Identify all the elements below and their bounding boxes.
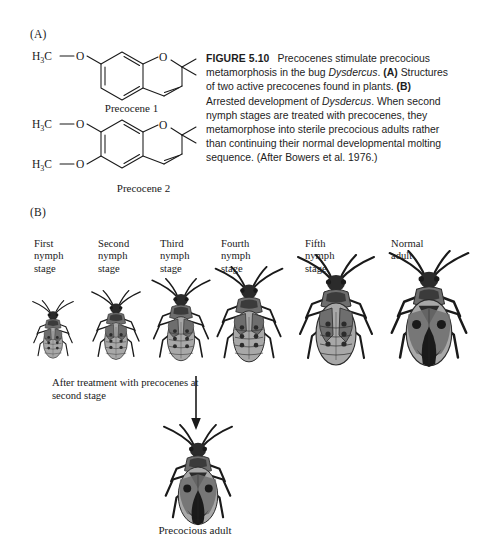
caption-italic-2: Dysdercus bbox=[322, 96, 371, 107]
treatment-note: After treatment with precocenes at secon… bbox=[52, 377, 202, 402]
precocene-1-skeleton: H3C O O bbox=[30, 46, 210, 104]
methoxy-carbon-label-bottom: H3C bbox=[32, 158, 52, 173]
precocene-2-skeleton: H3C O H3C O O bbox=[30, 112, 210, 184]
caption-text-4: Arrested development of bbox=[206, 96, 322, 107]
figure-number: FIGURE 5.10 bbox=[206, 53, 269, 64]
figure-caption: FIGURE 5.10Precocenes stimulate precocio… bbox=[206, 52, 448, 166]
ether-oxygen-label: O bbox=[76, 50, 84, 62]
pyran-oxygen-label: O bbox=[159, 51, 167, 63]
methoxy-carbon-label-top: H3C bbox=[32, 118, 52, 133]
dysdercus-second-nymph bbox=[84, 290, 148, 364]
precocene-1-structure: H3C O O Precocene 1 bbox=[30, 46, 219, 114]
dysdercus-fourth-nymph bbox=[205, 266, 293, 368]
caption-bold-a: (A) bbox=[383, 67, 397, 78]
bug-second-nymph bbox=[84, 290, 148, 364]
panel-a-label: (A) bbox=[30, 28, 47, 40]
stage-label-third-nymph: Third nymph stage bbox=[160, 238, 189, 275]
caption-bold-b: (B) bbox=[397, 81, 411, 92]
dysdercus-first-nymph bbox=[26, 300, 80, 362]
caption-italic-1: Dysdercus bbox=[328, 67, 377, 78]
methoxy-carbon-label: H3C bbox=[32, 50, 52, 65]
dysdercus-fifth-nymph bbox=[286, 254, 386, 370]
figure-5-10: (A) H3 bbox=[0, 0, 487, 558]
bug-fourth-nymph bbox=[205, 266, 293, 368]
pyran-oxygen-label: O bbox=[159, 119, 167, 131]
stage-label-second-nymph: Second nymph stage bbox=[98, 238, 129, 275]
bug-precocious-adult bbox=[152, 424, 244, 528]
bug-fifth-nymph bbox=[286, 254, 386, 370]
panel-b-label: (B) bbox=[30, 206, 46, 218]
precocene-2-structure: H3C O H3C O O Precocene 2 bbox=[30, 112, 231, 194]
dysdercus-normal-adult bbox=[377, 250, 481, 370]
precocious-adult-label: Precocious adult bbox=[90, 524, 300, 536]
ether-oxygen-label-top: O bbox=[76, 118, 84, 130]
bug-normal-adult bbox=[377, 250, 481, 370]
ether-oxygen-label-bottom: O bbox=[76, 158, 84, 170]
stage-label-first-nymph: First nymph stage bbox=[34, 238, 63, 275]
precocene-2-name: Precocene 2 bbox=[56, 182, 231, 194]
bug-first-nymph bbox=[26, 300, 80, 362]
dysdercus-precocious-adult bbox=[152, 424, 244, 528]
